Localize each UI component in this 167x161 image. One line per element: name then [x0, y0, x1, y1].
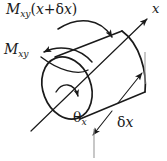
- dimension-arrow-lower: [93, 111, 112, 135]
- label-moment-left-subscript: xy: [18, 48, 28, 59]
- label-moment-right-paren-close: ): [72, 1, 77, 17]
- theta-rotation-arrow: [56, 85, 78, 96]
- label-moment-right-arg: x: [36, 1, 44, 17]
- theta-rotation-arrow-path: [56, 85, 78, 96]
- label-theta-x: θx: [73, 110, 86, 124]
- label-axis-x: x: [152, 2, 159, 15]
- label-moment-right-arg2: x: [64, 1, 72, 17]
- label-moment-right-delta: δ: [56, 1, 64, 17]
- mechanics-figure: Mxy(x+δx) Mxy θx δx x: [0, 0, 167, 161]
- dimension-delta-x: [93, 52, 145, 158]
- label-delta-var: x: [125, 114, 133, 130]
- label-axis-x-text: x: [152, 1, 159, 16]
- label-moment-right-subscript: xy: [20, 8, 30, 19]
- moment-arrow-right: [58, 21, 112, 37]
- label-theta-subscript: x: [81, 116, 86, 127]
- label-delta-x: δx: [117, 115, 133, 129]
- label-moment-left-base: M: [4, 41, 18, 57]
- label-moment-right: Mxy(x+δx): [6, 2, 77, 16]
- moment-arrow-right-path: [58, 21, 112, 37]
- label-moment-left: Mxy: [4, 42, 28, 56]
- label-moment-right-base: M: [6, 1, 20, 17]
- label-moment-right-plus: +: [44, 1, 56, 17]
- figure-drawing: [0, 0, 167, 161]
